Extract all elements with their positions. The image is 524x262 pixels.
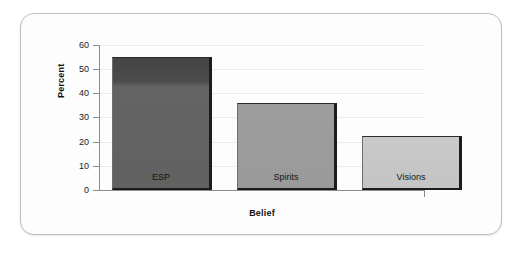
x-axis-end-tick [424, 190, 425, 197]
bar-label-spirits: Spirits [238, 172, 334, 182]
y-tick-mark-30 [93, 117, 99, 118]
bar-chart: 60 50 40 30 20 10 0 Percent Belief ESP S… [0, 0, 524, 262]
y-tick-label-40: 40 [63, 89, 89, 98]
y-axis-title: Percent [56, 64, 66, 98]
y-tick-mark-10 [93, 166, 99, 167]
y-tick-mark-0 [93, 190, 99, 191]
y-tick-label-50: 50 [63, 65, 89, 74]
y-tick-label-10: 10 [63, 162, 89, 171]
bars-layer: ESP Spirits Visions [100, 45, 424, 190]
bar-spirits[interactable]: Spirits [237, 103, 337, 190]
y-tick-label-60: 60 [63, 41, 89, 50]
y-tick-label-30: 30 [63, 113, 89, 122]
bar-label-esp: ESP [113, 172, 209, 182]
y-tick-mark-50 [93, 69, 99, 70]
x-axis-line [99, 190, 425, 191]
x-axis-title: Belief [99, 208, 425, 218]
bar-visions[interactable]: Visions [362, 136, 462, 190]
y-tick-label-0: 0 [63, 186, 89, 195]
y-tick-mark-40 [93, 93, 99, 94]
bar-esp[interactable]: ESP [112, 57, 212, 190]
y-tick-mark-60 [93, 45, 99, 46]
y-tick-label-20: 20 [63, 138, 89, 147]
y-tick-mark-20 [93, 142, 99, 143]
bar-label-visions: Visions [363, 172, 459, 182]
